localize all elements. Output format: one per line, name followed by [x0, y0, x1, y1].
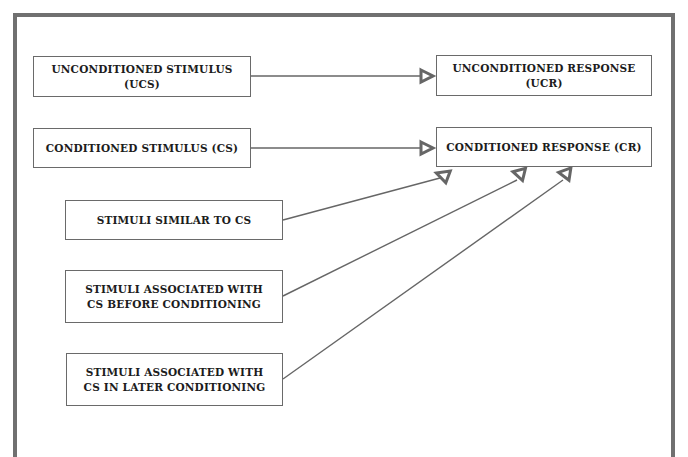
node-label-line2: CS BEFORE CONDITIONING: [87, 297, 261, 312]
node-label: UNCONDITIONED RESPONSE (UCR): [437, 61, 651, 91]
node-conditioned-response: CONDITIONED RESPONSE (CR): [436, 127, 652, 167]
node-stimuli-later-conditioning: STIMULI ASSOCIATED WITH CS IN LATER COND…: [66, 353, 283, 406]
node-conditioned-stimulus: CONDITIONED STIMULUS (CS): [33, 128, 251, 168]
node-label: STIMULI SIMILAR TO CS: [97, 213, 252, 228]
node-stimuli-similar: STIMULI SIMILAR TO CS: [65, 200, 283, 240]
node-unconditioned-response: UNCONDITIONED RESPONSE (UCR): [436, 55, 652, 96]
node-label-line1: STIMULI ASSOCIATED WITH: [85, 282, 263, 297]
node-label-line1: STIMULI ASSOCIATED WITH: [86, 365, 264, 380]
node-label: UNCONDITIONED STIMULUS (UCS): [34, 62, 250, 92]
node-label-line2: CS IN LATER CONDITIONING: [84, 380, 266, 395]
node-label: CONDITIONED STIMULUS (CS): [46, 141, 239, 156]
node-unconditioned-stimulus: UNCONDITIONED STIMULUS (UCS): [33, 56, 251, 97]
node-stimuli-before-conditioning: STIMULI ASSOCIATED WITH CS BEFORE CONDIT…: [65, 270, 283, 323]
node-label: CONDITIONED RESPONSE (CR): [446, 140, 642, 155]
